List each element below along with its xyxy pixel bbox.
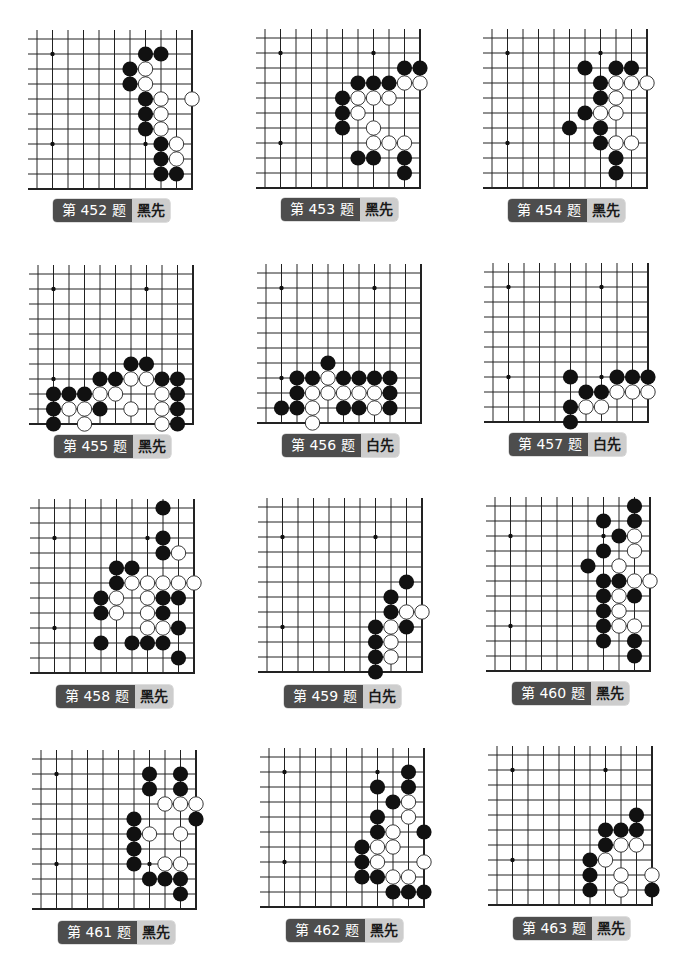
- black-stone: [629, 822, 644, 837]
- star-point: [510, 858, 514, 862]
- black-stone: [598, 837, 613, 852]
- black-stone: [598, 822, 613, 837]
- black-stone: [629, 807, 644, 822]
- star-point: [603, 768, 607, 772]
- black-stone: [582, 867, 597, 882]
- white-stone: [614, 838, 628, 852]
- white-stone: [598, 853, 612, 867]
- to-move-indicator: 黑先: [592, 917, 630, 940]
- white-stone: [645, 868, 659, 882]
- white-stone: [629, 838, 643, 852]
- star-point: [510, 768, 514, 772]
- black-stone: [644, 882, 659, 897]
- white-stone: [614, 868, 628, 882]
- problem-number: 第 463 题: [513, 917, 592, 940]
- black-stone: [582, 882, 597, 897]
- problem-label: 第 463 题 黑先: [513, 917, 630, 940]
- go-board: [0, 0, 679, 967]
- black-stone: [582, 852, 597, 867]
- white-stone: [614, 883, 628, 897]
- black-stone: [613, 822, 628, 837]
